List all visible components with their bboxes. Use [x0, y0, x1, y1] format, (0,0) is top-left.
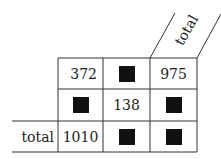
- cell-r2c2: 138: [103, 89, 150, 121]
- hidden-value-square: [119, 66, 135, 82]
- cell-r2c1: [58, 89, 103, 121]
- hidden-value-square: [119, 129, 135, 145]
- cell-grand-total: [150, 121, 197, 152]
- cell-r1c2: [103, 58, 150, 89]
- row-label-total: total: [12, 121, 58, 152]
- hidden-value-square: [166, 97, 182, 113]
- hidden-value-square: [166, 129, 182, 145]
- cell-r2-total: [150, 89, 197, 121]
- hidden-value-square: [73, 97, 89, 113]
- cell-total-c1: 1010: [58, 121, 103, 152]
- cell-total-c2: [103, 121, 150, 152]
- cell-r1c1: 372: [58, 58, 103, 89]
- cell-r1-total: 975: [150, 58, 197, 89]
